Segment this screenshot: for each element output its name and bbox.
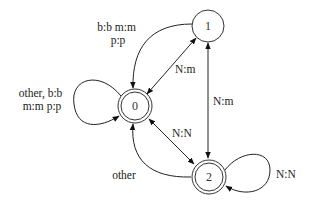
edge-label-2-2: N:N <box>276 168 297 180</box>
edge-0-0-self-loop <box>74 80 121 124</box>
edge-label-1-2: N:m <box>213 95 234 107</box>
fst-diagram: other, b:b m:m p:p b:b m:m p:p N:m N:m N… <box>0 0 312 213</box>
state-1: 1 <box>192 10 224 42</box>
edge-label-2-0: other <box>112 169 136 181</box>
edge-1-0-curved <box>133 24 192 88</box>
edge-label-0-0: other, b:b m:m p:p <box>19 87 66 113</box>
state-0: 0 <box>118 89 152 123</box>
state-2: 2 <box>192 160 226 194</box>
edge-label-0-1: N:m <box>175 63 196 75</box>
svg-text:0: 0 <box>132 99 138 113</box>
svg-text:2: 2 <box>206 170 212 184</box>
edge-0-2-bidirectional <box>149 119 194 164</box>
svg-text:1: 1 <box>205 19 211 33</box>
edge-label-1-0: b:b m:m p:p <box>97 21 139 47</box>
edge-2-2-self-loop <box>225 154 270 192</box>
edge-label-0-2: N:N <box>172 127 193 139</box>
